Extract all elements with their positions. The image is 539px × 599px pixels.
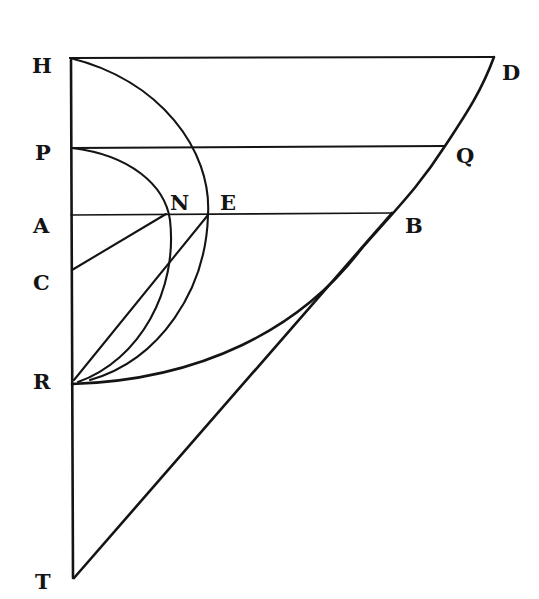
arc-PNR <box>72 148 171 382</box>
label-Q: Q <box>456 143 474 168</box>
label-P: P <box>35 140 51 165</box>
label-B: B <box>405 213 423 238</box>
line-HD <box>70 57 494 58</box>
curve-RB <box>72 248 362 384</box>
label-A: A <box>32 213 50 238</box>
label-C: C <box>33 270 50 295</box>
line-CN <box>72 214 166 270</box>
label-H: H <box>32 53 52 78</box>
tangent-line-TB <box>74 213 392 578</box>
label-N: N <box>170 190 189 215</box>
axis-line-HT <box>71 60 73 578</box>
label-D: D <box>502 60 520 85</box>
arc-HER <box>70 58 208 380</box>
label-E: E <box>220 190 236 215</box>
label-T: T <box>35 569 51 594</box>
geometric-figure: H D P Q A N E B C R T <box>0 0 539 599</box>
line-PQ <box>71 146 445 148</box>
label-R: R <box>33 369 51 394</box>
